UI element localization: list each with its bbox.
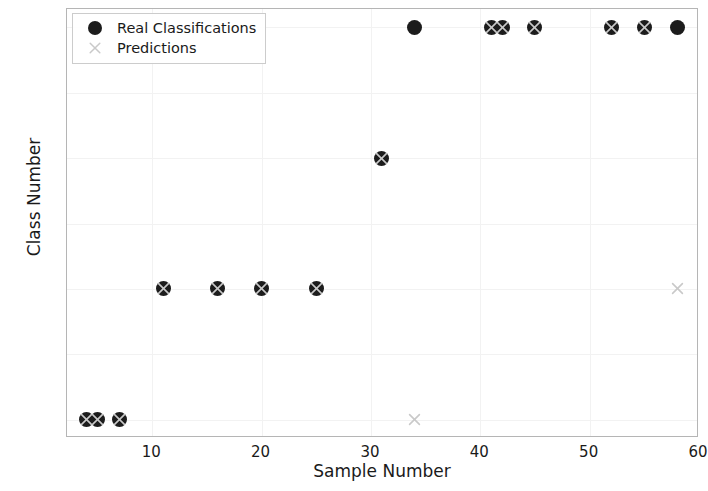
x-tick-label: 10: [131, 443, 171, 461]
x-tick-mark: [371, 436, 372, 437]
x-tick-mark: [152, 436, 153, 437]
gridline-vertical: [262, 9, 263, 436]
gridline-horizontal: [67, 354, 697, 355]
x-tick-label: 50: [569, 443, 609, 461]
x-tick-mark: [480, 436, 481, 437]
x-axis-title: Sample Number: [66, 461, 698, 481]
y-tick-mark: [66, 27, 67, 28]
filled-circle-marker-icon: [80, 20, 110, 36]
gridline-vertical: [152, 9, 153, 436]
data-point-prediction: [604, 20, 619, 35]
x-tick-mark: [590, 436, 591, 437]
gridline-horizontal: [67, 420, 697, 421]
gridline-horizontal: [67, 224, 697, 225]
data-point-prediction: [90, 412, 105, 427]
x-tick-mark: [262, 436, 263, 437]
data-point-prediction: [254, 281, 269, 296]
x-tick-label: 30: [350, 443, 390, 461]
data-point-prediction: [112, 412, 127, 427]
legend-label-real-classifications: Real Classifications: [117, 20, 256, 36]
data-point-prediction: [670, 281, 685, 296]
gridline-horizontal: [67, 93, 697, 94]
gridline-vertical: [371, 9, 372, 436]
x-tick-label: 40: [459, 443, 499, 461]
gridline-vertical: [590, 9, 591, 436]
data-point-prediction: [637, 20, 652, 35]
legend-label-predictions: Predictions: [117, 40, 197, 56]
y-tick-mark: [66, 354, 67, 355]
gridline-vertical: [480, 9, 481, 436]
data-point-prediction: [309, 281, 324, 296]
data-point-prediction: [210, 281, 225, 296]
y-tick-mark: [66, 158, 67, 159]
legend-entry-real-classifications: Real Classifications: [80, 18, 256, 38]
plot-area: Real Classifications Predictions: [66, 8, 698, 437]
x-cross-marker-icon: [80, 40, 110, 56]
y-tick-mark: [66, 420, 67, 421]
legend-entry-predictions: Predictions: [80, 38, 256, 58]
data-point-prediction: [156, 281, 171, 296]
data-point-prediction: [495, 20, 510, 35]
x-tick-label: 20: [241, 443, 281, 461]
data-point-prediction: [374, 151, 389, 166]
data-point-real: [407, 20, 422, 35]
data-point-prediction: [407, 412, 422, 427]
y-tick-mark: [66, 93, 67, 94]
chart-legend: Real Classifications Predictions: [72, 13, 266, 64]
data-point-prediction: [527, 20, 542, 35]
data-point-real: [670, 20, 685, 35]
y-axis-title: Class Number: [24, 77, 44, 317]
scatter-plot-figure: Class Number Sample Number Real Classifi…: [0, 0, 708, 491]
x-tick-label: 60: [678, 443, 708, 461]
y-tick-mark: [66, 224, 67, 225]
y-tick-mark: [66, 289, 67, 290]
